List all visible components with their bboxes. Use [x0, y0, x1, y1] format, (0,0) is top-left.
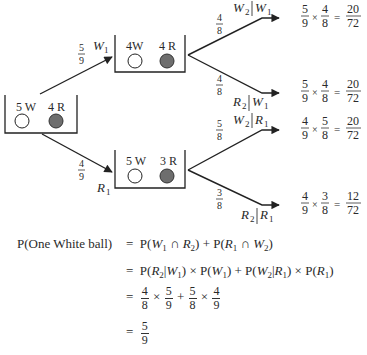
branch-arrow-w2-given-r1	[188, 130, 279, 170]
svg-text:9: 9	[79, 171, 84, 182]
branch-arrow-w1	[40, 57, 112, 94]
svg-text:8: 8	[217, 200, 222, 211]
fraction: 48	[141, 285, 149, 311]
cond-label-w2-given-r1: W 2 R 1	[233, 112, 269, 129]
derivation-line-2: = P(R2|W1) × P(W1) + P(W2|R1) × P(R1)	[126, 264, 334, 280]
svg-text:4: 4	[302, 189, 308, 203]
svg-text:8: 8	[322, 128, 328, 142]
svg-text:9: 9	[302, 128, 308, 142]
svg-text:8: 8	[322, 91, 328, 105]
urn-r1-white-label: 5 W	[126, 154, 147, 168]
svg-text:4: 4	[217, 73, 222, 84]
svg-text:2: 2	[242, 101, 247, 111]
derivation-lhs: P(One White ball)	[17, 237, 112, 250]
cond-label-w2-given-w1: W 2 W 1	[233, 0, 272, 17]
svg-text:4: 4	[322, 2, 328, 16]
svg-text:×: ×	[312, 12, 318, 23]
svg-text:1: 1	[267, 7, 272, 17]
svg-text:20: 20	[347, 114, 359, 128]
svg-text:20: 20	[347, 77, 359, 91]
svg-text:4: 4	[302, 114, 308, 128]
fraction: 58	[189, 285, 197, 311]
svg-text:=: =	[334, 198, 340, 210]
urn-after-r1: 5 W 3 R	[115, 150, 185, 188]
urn-r1-red-label: 3 R	[160, 154, 177, 168]
branch-arrow-r2-given-r1	[188, 170, 279, 205]
result-w1-r2: 5 9 × 4 8 = 20 72	[301, 77, 361, 105]
svg-text:W: W	[252, 94, 264, 109]
event-label-w1: W 1	[93, 38, 109, 55]
white-ball-icon	[128, 169, 142, 183]
svg-text:4: 4	[79, 158, 84, 169]
derivation-line-3: = 48 × 59 + 58 × 49	[126, 285, 221, 311]
root-urn-red-label: 4 R	[48, 100, 65, 114]
root-urn: 5 W 4 R	[5, 95, 77, 133]
svg-text:=: =	[334, 123, 340, 135]
svg-text:72: 72	[347, 203, 359, 217]
branch-prob-w2-given-w1: 4 8	[216, 12, 223, 36]
svg-text:1: 1	[106, 187, 111, 197]
svg-text:3: 3	[217, 187, 222, 198]
svg-text:R: R	[259, 207, 268, 222]
red-ball-icon	[49, 114, 63, 128]
svg-text:R: R	[232, 94, 241, 109]
svg-text:4: 4	[217, 12, 222, 23]
red-ball-icon	[160, 169, 174, 183]
svg-text:=: =	[334, 86, 340, 98]
probability-tree-diagram: 5 W 4 R 5 9 W 1 4W 4 R 4 9 R 1 5 W 3 R	[0, 0, 367, 230]
branch-prob-w1: 5 9	[78, 42, 85, 66]
urn-w1-red-label: 4 R	[159, 39, 176, 53]
cond-label-r2-given-r1: R 2 R 1	[240, 207, 274, 224]
root-urn-white-label: 5 W	[16, 100, 37, 114]
urn-w1-white-label: 4W	[126, 39, 144, 53]
branch-arrow-r1	[42, 134, 112, 172]
svg-text:1: 1	[104, 45, 109, 55]
svg-text:8: 8	[217, 25, 222, 36]
svg-text:20: 20	[347, 2, 359, 16]
svg-text:2: 2	[245, 7, 250, 17]
result-r1-w2: 4 9 × 5 8 = 20 72	[301, 114, 361, 142]
svg-text:9: 9	[79, 55, 84, 66]
svg-text:72: 72	[347, 16, 359, 30]
svg-text:R: R	[240, 207, 249, 222]
branch-prob-r1: 4 9	[78, 158, 85, 182]
branch-arrow-w2-given-w1	[188, 18, 279, 55]
fraction: 49	[212, 285, 220, 311]
svg-text:9: 9	[302, 203, 308, 217]
svg-text:=: =	[334, 11, 340, 23]
derivation-result: = 59	[126, 320, 150, 346]
svg-text:8: 8	[217, 131, 222, 142]
svg-text:2: 2	[245, 119, 250, 129]
svg-text:5: 5	[302, 2, 308, 16]
svg-text:5: 5	[302, 77, 308, 91]
svg-text:R: R	[254, 112, 263, 127]
svg-text:4: 4	[322, 77, 328, 91]
svg-text:R: R	[96, 180, 105, 195]
event-label-r1: R 1	[96, 180, 111, 197]
urn-after-w1: 4W 4 R	[115, 35, 185, 72]
svg-text:8: 8	[217, 86, 222, 97]
svg-text:72: 72	[347, 128, 359, 142]
svg-text:1: 1	[269, 214, 274, 224]
svg-text:5: 5	[79, 42, 84, 53]
branch-prob-w2-given-r1: 5 8	[216, 118, 223, 142]
svg-text:72: 72	[347, 91, 359, 105]
white-ball-icon	[15, 114, 29, 128]
svg-text:9: 9	[302, 91, 308, 105]
white-ball-icon	[128, 54, 142, 68]
svg-text:2: 2	[250, 214, 255, 224]
branch-prob-r2-given-r1: 3 8	[216, 187, 223, 211]
svg-text:3: 3	[322, 189, 328, 203]
derivation-line-1: = P(W1 ∩ R2) + P(R1 ∩ W2)	[126, 237, 273, 253]
svg-text:8: 8	[322, 203, 328, 217]
svg-text:W: W	[255, 0, 267, 15]
result-r1-r2: 4 9 × 3 8 = 12 72	[301, 189, 361, 217]
svg-text:5: 5	[322, 114, 328, 128]
svg-text:×: ×	[312, 199, 318, 210]
svg-text:5: 5	[217, 118, 222, 129]
result-w1-w2: 5 9 × 4 8 = 20 72	[301, 2, 361, 30]
svg-text:×: ×	[312, 124, 318, 135]
svg-text:1: 1	[264, 119, 269, 129]
red-ball-icon	[160, 54, 174, 68]
cond-label-r2-given-w1: R 2 W 1	[232, 94, 269, 111]
